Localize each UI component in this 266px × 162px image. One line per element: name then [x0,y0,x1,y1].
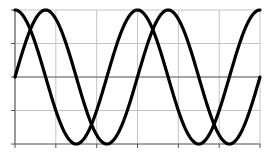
line-chart [0,0,266,162]
